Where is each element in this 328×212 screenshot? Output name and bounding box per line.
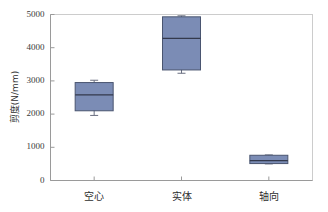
x-axis-category-label: 实体 bbox=[172, 190, 192, 202]
boxplot-svg: 010002000300040005000 空心实体轴向 剪度(N/mm) bbox=[0, 0, 328, 212]
box-body bbox=[75, 83, 113, 111]
x-axis-category-label: 轴向 bbox=[259, 190, 279, 202]
y-tick-label: 4000 bbox=[27, 42, 46, 52]
y-tick-label: 0 bbox=[40, 175, 45, 185]
boxplot-chart: 010002000300040005000 空心实体轴向 剪度(N/mm) bbox=[0, 0, 328, 212]
y-tick-label: 3000 bbox=[27, 75, 46, 85]
y-tick-label: 2000 bbox=[27, 108, 46, 118]
box-plot-item bbox=[250, 155, 288, 164]
box-plot-item bbox=[75, 80, 113, 115]
y-tick-label: 1000 bbox=[27, 141, 46, 151]
box-body bbox=[163, 17, 201, 70]
y-axis-title-text: 剪度(N/mm) bbox=[9, 71, 20, 123]
y-axis-title: 剪度(N/mm) bbox=[9, 71, 20, 123]
box-plot-item bbox=[163, 16, 201, 73]
y-tick-label: 5000 bbox=[27, 9, 46, 19]
box-body bbox=[250, 155, 288, 163]
x-axis-category-label: 空心 bbox=[84, 190, 104, 202]
